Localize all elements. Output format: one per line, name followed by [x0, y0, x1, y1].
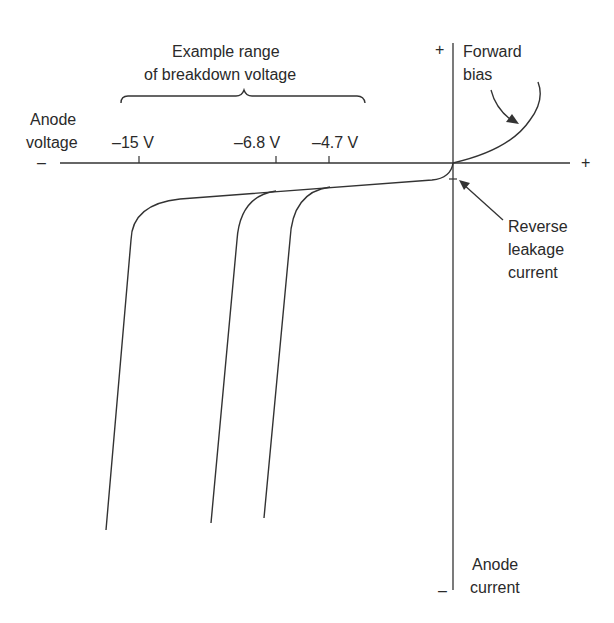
reverse-leakage-label-line3: current — [508, 263, 558, 282]
x-axis-pos-sign: + — [581, 155, 590, 171]
y-axis-neg-sign: – — [438, 583, 447, 599]
reverse-leakage-label-line2: leakage — [508, 240, 564, 259]
diagram-canvas — [0, 0, 614, 623]
breakdown-curve-4-7v — [264, 187, 330, 518]
x-axis-label-line1: Anode — [30, 110, 76, 129]
y-axis-label-line2: current — [470, 578, 520, 597]
forward-bias-label-line1: Forward — [463, 42, 522, 61]
reverse-leakage-label-line1: Reverse — [508, 217, 568, 236]
forward-bias-label-line2: bias — [463, 65, 492, 84]
tick-label-4-7v: –4.7 V — [312, 133, 358, 152]
breakdown-curve-6-8v — [211, 191, 276, 523]
range-label-line2: of breakdown voltage — [144, 65, 296, 84]
tick-label-6-8v: –6.8 V — [234, 133, 280, 152]
reverse-leakage-curve — [180, 163, 453, 199]
x-axis-neg-sign: – — [37, 155, 46, 171]
range-brace — [121, 90, 365, 103]
forward-bias-curve — [453, 82, 540, 163]
y-axis-pos-sign: + — [435, 42, 444, 58]
tick-label-15v: –15 V — [112, 133, 154, 152]
reverse-leakage-arrow — [463, 184, 503, 220]
breakdown-curve-15v — [106, 199, 180, 530]
y-axis-label-line1: Anode — [472, 555, 518, 574]
x-axis-label-line2: voltage — [26, 133, 78, 152]
forward-arrowhead — [506, 114, 519, 124]
range-label-line1: Example range — [172, 42, 280, 61]
